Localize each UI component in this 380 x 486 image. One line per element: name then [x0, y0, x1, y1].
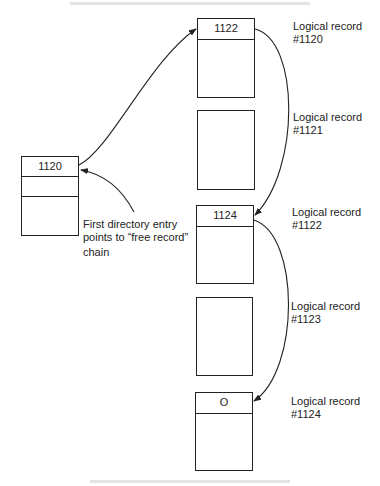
pointer-arrows — [0, 0, 380, 486]
arrow-1122-to-1124 — [254, 220, 289, 401]
arrow-directory-to-1120 — [79, 29, 196, 165]
arrow-1120-to-1122 — [255, 29, 289, 215]
arrow-annotation-to-directory — [81, 170, 134, 212]
